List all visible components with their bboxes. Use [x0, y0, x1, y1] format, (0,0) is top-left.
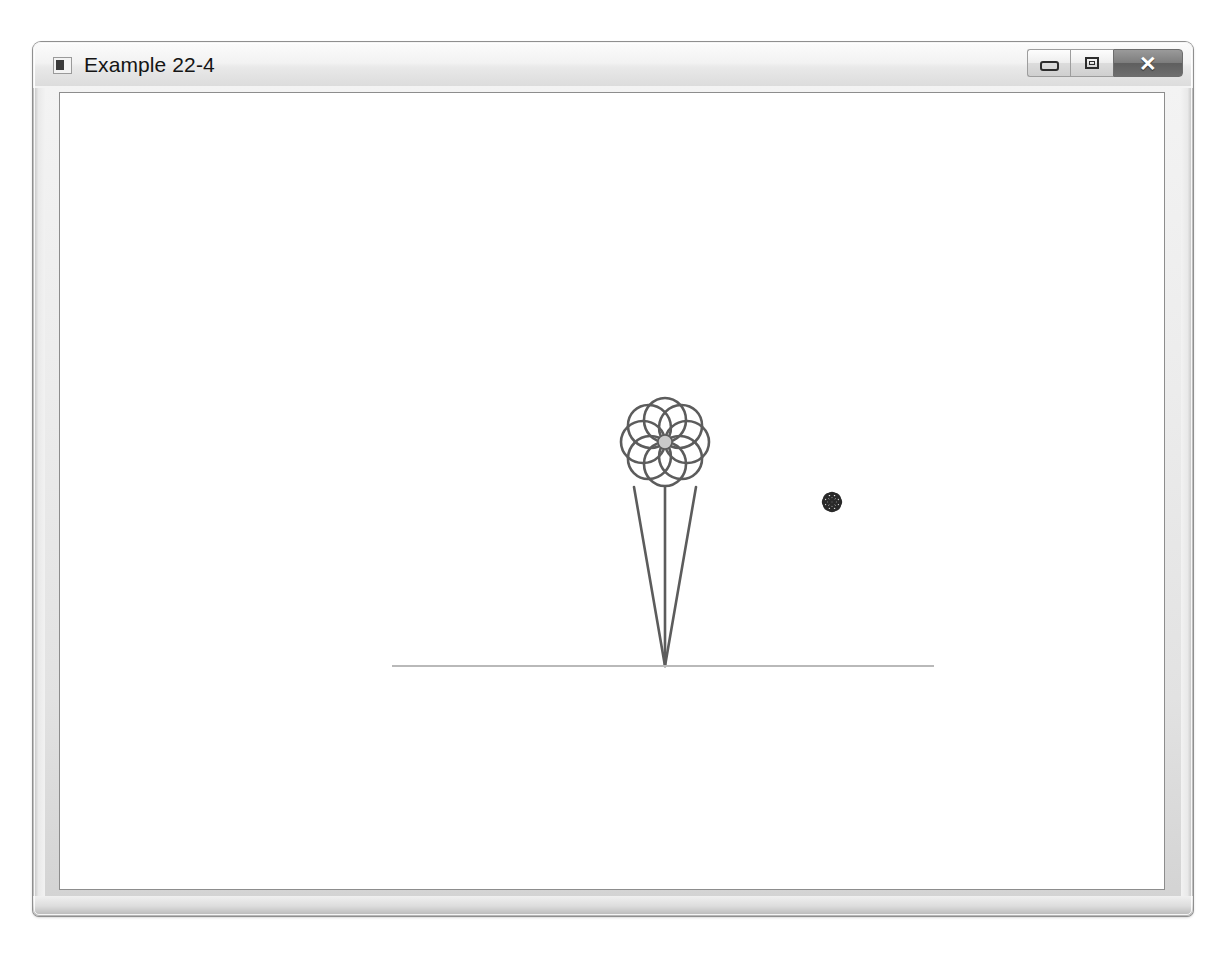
small-flower — [822, 492, 842, 512]
maximize-button[interactable] — [1070, 49, 1113, 77]
minimize-button[interactable] — [1027, 49, 1070, 77]
close-icon: ✕ — [1139, 53, 1157, 74]
flower-petal — [619, 396, 680, 457]
application-window-icon — [53, 57, 72, 74]
flower-center — [830, 500, 834, 504]
screen: Example 22-4 ✕ — [0, 0, 1227, 963]
close-button[interactable]: ✕ — [1113, 49, 1183, 77]
stem-right — [665, 487, 696, 666]
large-flower — [619, 396, 711, 488]
window-frame-bottom — [33, 896, 1193, 916]
flower-center — [658, 435, 672, 449]
application-window: Example 22-4 ✕ — [33, 42, 1193, 916]
drawing-canvas[interactable] — [59, 92, 1165, 890]
window-frame-left — [33, 88, 45, 910]
minimize-icon — [1040, 61, 1059, 71]
stem-left — [634, 487, 665, 666]
flower-scene — [60, 93, 1164, 889]
caption-buttons: ✕ — [1027, 49, 1183, 77]
maximize-icon — [1085, 57, 1099, 69]
window-title: Example 22-4 — [84, 53, 215, 77]
title-bar[interactable]: Example 22-4 ✕ — [35, 44, 1191, 86]
window-frame-right — [1181, 88, 1193, 910]
